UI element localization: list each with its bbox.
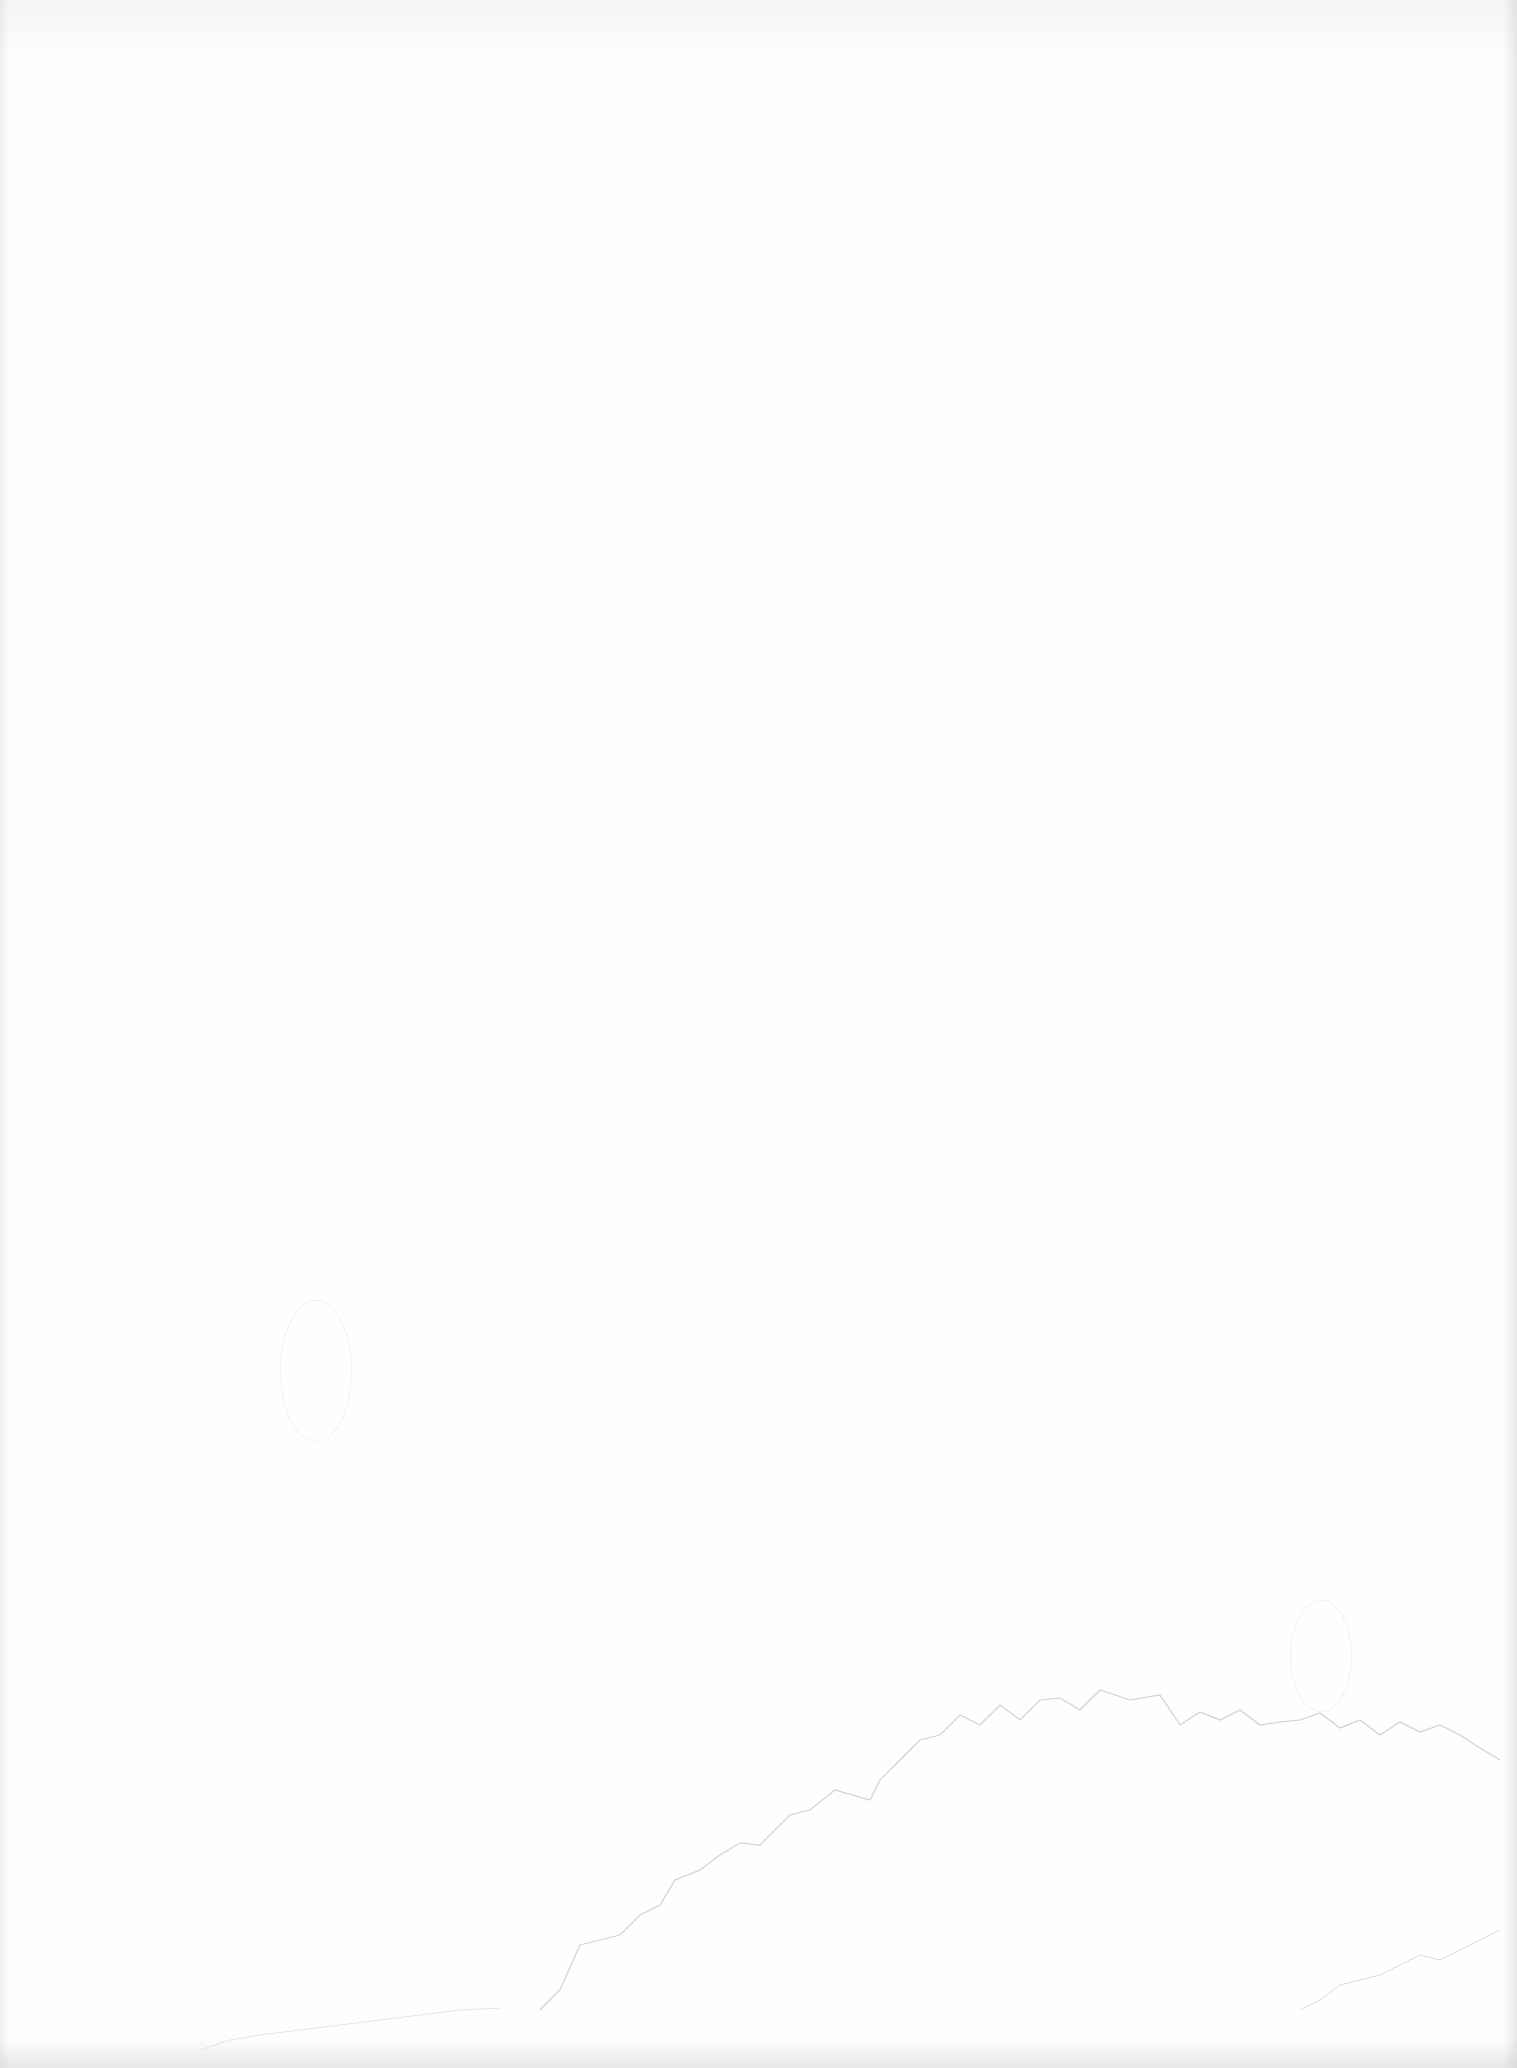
- blank-page: [0, 0, 1517, 2068]
- paper-crease-mark: [0, 0, 1517, 2068]
